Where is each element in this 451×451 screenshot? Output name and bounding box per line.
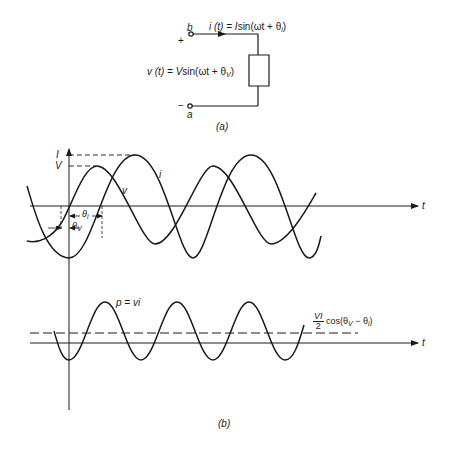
minus-sign: − <box>178 101 184 111</box>
voltage-close: ) <box>231 66 234 77</box>
fraction-denominator: 2 <box>313 322 324 331</box>
voltage-lhs: v (t) = <box>147 66 176 77</box>
t-axis-top-label: t <box>422 201 425 211</box>
power-label: p = vi <box>116 298 140 308</box>
avg-mid: − θ <box>353 316 368 326</box>
caption-b: (b) <box>218 419 230 429</box>
current-expression: i (t) = Isin(ωt + θi) <box>209 22 286 33</box>
level-I-label: I <box>56 150 59 160</box>
curve-v-label: v <box>122 186 127 196</box>
theta-i-sub: i <box>87 213 89 220</box>
waveform-plot <box>27 149 418 410</box>
theta-i-label: θi <box>82 210 88 220</box>
current-lhs: i (t) = <box>209 21 235 32</box>
load-element <box>249 55 269 86</box>
t-axis-bottom-label: t <box>422 338 425 348</box>
plus-sign: + <box>178 36 184 46</box>
average-power-expression: VI 2 cos(θV − θi) <box>313 312 373 331</box>
avg-body: cos(θ <box>326 316 348 326</box>
theta-v-sub: V <box>77 225 82 232</box>
voltage-body: sin(ωt + θ <box>182 66 226 77</box>
caption-a: (a) <box>216 122 228 132</box>
curve-i-label: i <box>159 170 161 180</box>
voltage-expression: v (t) = Vsin(ωt + θV) <box>147 67 234 78</box>
voltage-curve-v <box>27 166 316 244</box>
level-V-label: V <box>55 161 62 171</box>
terminal-b-label: b <box>187 23 193 33</box>
terminal-a-label: a <box>187 110 193 120</box>
average-power-fraction: VI 2 <box>313 312 324 331</box>
theta-v-label: θV <box>72 222 82 232</box>
current-close: ) <box>283 21 286 32</box>
avg-close: ) <box>370 316 373 326</box>
power-curve-p <box>54 302 304 360</box>
terminal-a <box>188 104 192 108</box>
current-body: sin(ωt + θ <box>238 21 282 32</box>
